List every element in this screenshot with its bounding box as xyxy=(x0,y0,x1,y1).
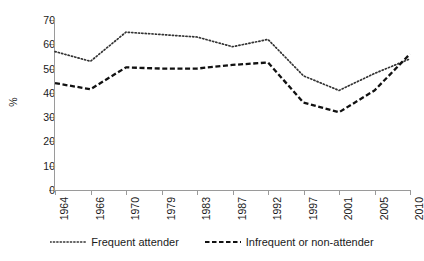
y-axis-tick-label-wrap: 30 xyxy=(0,112,55,122)
x-axis-tick-label: 1983 xyxy=(201,197,212,220)
plot-area xyxy=(55,20,410,190)
y-axis-tick-label: 0 xyxy=(11,185,55,195)
x-axis-tick xyxy=(375,190,376,195)
x-axis-tick-label: 1966 xyxy=(95,197,106,220)
y-axis-tick-label-wrap: 60 xyxy=(0,39,55,49)
y-axis-tick-label-wrap: 10 xyxy=(0,161,55,171)
x-axis-tick-label: 1992 xyxy=(272,197,283,220)
x-axis-tick xyxy=(304,190,305,195)
y-axis-tick-label-wrap: 0 xyxy=(0,185,55,195)
x-axis-tick xyxy=(162,190,163,195)
y-axis-tick-label-wrap: 70 xyxy=(0,15,55,25)
line-chart: % 706050403020100 1964196619701979198319… xyxy=(0,0,424,261)
x-axis-tick-label: 2005 xyxy=(379,197,390,220)
x-axis-tick xyxy=(410,190,411,195)
dotted-line-icon xyxy=(50,239,86,245)
y-axis-tick-label: 60 xyxy=(11,39,55,49)
x-axis-tick xyxy=(55,190,56,195)
x-axis-tick-label: 2010 xyxy=(414,197,424,220)
x-axis-tick xyxy=(91,190,92,195)
y-axis-tick-label: 50 xyxy=(11,64,55,74)
y-axis-tick-label: 10 xyxy=(11,161,55,171)
chart-legend: Frequent attender Infrequent or non-atte… xyxy=(0,236,424,248)
legend-item-frequent-attender: Frequent attender xyxy=(50,236,178,248)
x-axis-tick xyxy=(268,190,269,195)
legend-label: Infrequent or non-attender xyxy=(246,236,374,248)
y-axis-title: % xyxy=(7,97,19,106)
legend-item-infrequent-or-non-attender: Infrequent or non-attender xyxy=(205,236,374,248)
x-axis-tick xyxy=(339,190,340,195)
y-axis-tick-label: 40 xyxy=(11,88,55,98)
x-axis-tick-label: 1964 xyxy=(59,197,70,220)
x-axis-tick xyxy=(197,190,198,195)
series-line xyxy=(55,32,410,90)
series-lines xyxy=(55,20,410,190)
x-axis-tick xyxy=(233,190,234,195)
dashed-line-icon xyxy=(205,239,241,245)
legend-label: Frequent attender xyxy=(91,236,178,248)
y-axis-tick-label-wrap: 50 xyxy=(0,64,55,74)
x-axis-tick-label: 1987 xyxy=(237,197,248,220)
y-axis-tick-label: 30 xyxy=(11,112,55,122)
x-axis-tick-label: 1979 xyxy=(166,197,177,220)
y-axis-tick-label: 20 xyxy=(11,136,55,146)
series-line xyxy=(55,54,410,112)
x-axis-tick xyxy=(126,190,127,195)
x-axis-tick-label: 1970 xyxy=(130,197,141,220)
x-axis-tick-label: 2001 xyxy=(343,197,354,220)
y-axis-tick-label: 70 xyxy=(11,15,55,25)
x-axis-tick-label: 1997 xyxy=(308,197,319,220)
y-axis-tick-label-wrap: 20 xyxy=(0,136,55,146)
y-axis-tick-label-wrap: 40 xyxy=(0,88,55,98)
